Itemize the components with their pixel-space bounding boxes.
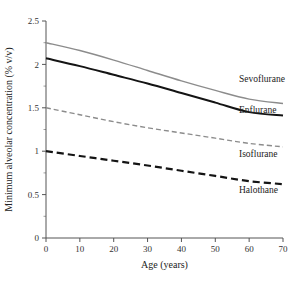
x-tick-label: 70 [279,244,289,254]
series-label-halothane: Halothane [239,185,278,195]
x-axis-title: Age (years) [141,259,188,271]
x-axis-ticks: 010203040506070 [44,238,288,254]
series-label-enflurane: Enflurane [239,105,276,115]
x-tick-label: 30 [143,244,153,254]
line-chart: 00.511.522.5 010203040506070 Sevoflurane… [0,0,297,286]
x-tick-label: 10 [75,244,85,254]
x-tick-label: 0 [44,244,49,254]
chart-figure: 00.511.522.5 010203040506070 Sevoflurane… [0,0,297,286]
x-tick-label: 50 [211,244,221,254]
series-labels: SevofluraneEnfluraneIsofluraneHalothane [239,74,285,195]
y-tick-label: 0.5 [28,190,40,200]
y-axis-title: Minimum alveolar concentration (% v/v) [3,47,15,211]
x-tick-label: 60 [245,244,255,254]
series-label-isoflurane: Isoflurane [239,149,278,159]
y-tick-label: 1 [35,146,40,156]
y-tick-label: 1.5 [28,103,40,113]
x-tick-label: 20 [109,244,119,254]
y-tick-label: 2.5 [28,16,40,26]
y-tick-label: 0 [35,233,40,243]
y-tick-label: 2 [35,60,40,70]
y-axis-ticks: 00.511.522.5 [28,16,46,243]
x-tick-label: 40 [177,244,187,254]
series-label-sevoflurane: Sevoflurane [239,74,285,84]
